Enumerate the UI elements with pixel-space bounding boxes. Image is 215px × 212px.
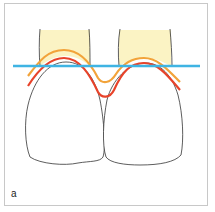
dental-diagram (0, 0, 215, 212)
panel-label: a (11, 188, 17, 199)
root-left (40, 30, 90, 66)
tooth-left-crown (26, 62, 105, 164)
root-right (119, 30, 171, 66)
